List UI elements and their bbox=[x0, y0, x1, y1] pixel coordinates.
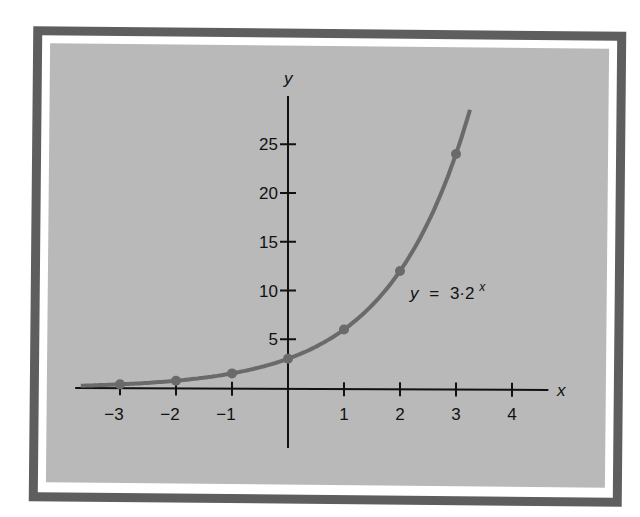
x-tick-label: 2 bbox=[395, 405, 404, 424]
labels-group: y x y = 3·2 x bbox=[283, 69, 566, 400]
x-tick-label: 4 bbox=[507, 405, 516, 424]
function-label-exponent: x bbox=[478, 280, 486, 294]
x-tick-label: −2 bbox=[160, 405, 179, 424]
x-tick-label: 1 bbox=[339, 405, 348, 424]
function-label-lhs: y bbox=[409, 284, 420, 303]
data-point bbox=[171, 376, 181, 386]
chart: −3−2−11234510152025 y x y = 3·2 x bbox=[0, 0, 640, 517]
data-point bbox=[283, 354, 293, 364]
x-tick-label: −1 bbox=[216, 405, 235, 424]
y-tick-label: 25 bbox=[259, 135, 278, 154]
data-point bbox=[339, 325, 349, 335]
y-tick-label: 15 bbox=[259, 233, 278, 252]
data-point bbox=[227, 368, 237, 378]
y-tick-label: 10 bbox=[259, 282, 278, 301]
function-label-base: 3·2 bbox=[450, 284, 475, 303]
data-point bbox=[115, 379, 125, 389]
function-label-eq: = bbox=[429, 284, 439, 303]
x-axis-label: x bbox=[556, 381, 566, 400]
y-tick-label: 5 bbox=[269, 330, 278, 349]
axes: −3−2−11234510152025 bbox=[75, 96, 548, 448]
x-tick-label: −3 bbox=[104, 405, 123, 424]
x-tick-label: 3 bbox=[451, 405, 460, 424]
function-label: y = 3·2 x bbox=[409, 280, 486, 303]
data-point bbox=[395, 266, 405, 276]
y-axis-label: y bbox=[283, 69, 294, 88]
y-tick-label: 20 bbox=[259, 184, 278, 203]
x-axis-line bbox=[75, 388, 548, 390]
data-point bbox=[451, 149, 461, 159]
